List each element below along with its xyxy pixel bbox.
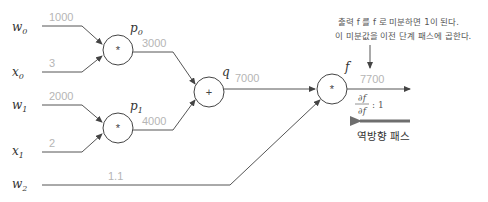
op-multiply: * bbox=[116, 44, 121, 56]
value-w0: 1000 bbox=[49, 11, 73, 23]
node-p0: * p0 bbox=[103, 21, 143, 65]
input-label-x0: x0 bbox=[12, 65, 24, 81]
input-label-w0: w0 bbox=[12, 20, 27, 36]
value-x0: 3 bbox=[49, 57, 55, 69]
annotation-line1: 출력 f 를 f 로 미분하면 1이 된다. bbox=[338, 17, 459, 27]
annotation-line2: 이 미분값을 이전 단계 패스에 곱한다. bbox=[335, 31, 471, 41]
node-label-p0: p0 bbox=[130, 21, 143, 37]
node-label-q: q bbox=[222, 65, 230, 79]
value-f: 7700 bbox=[360, 73, 384, 85]
derivative-label: ∂f ∂f : 1 bbox=[355, 93, 384, 116]
value-x1: 2 bbox=[49, 137, 55, 149]
input-label-w2: w2 bbox=[12, 177, 27, 193]
computational-graph: w0 x0 w1 x1 w2 1000 3 2000 2 1.1 * p0 * … bbox=[0, 0, 488, 202]
edge-w0-p0 bbox=[42, 26, 102, 44]
op-multiply: * bbox=[116, 122, 121, 134]
backward-pass-label: 역방향 패스 bbox=[357, 130, 410, 142]
value-p0: 3000 bbox=[142, 37, 166, 49]
node-label-f: f bbox=[344, 60, 352, 74]
node-p1: * p1 bbox=[103, 99, 143, 143]
value-w2: 1.1 bbox=[108, 170, 123, 182]
node-f: * f bbox=[317, 60, 352, 104]
value-q: 7000 bbox=[235, 72, 259, 84]
value-w1: 2000 bbox=[49, 90, 73, 102]
node-label-p1: p1 bbox=[130, 99, 143, 115]
op-multiply: * bbox=[330, 83, 335, 95]
derivative-value: : 1 bbox=[372, 100, 384, 110]
input-label-w1: w1 bbox=[12, 98, 27, 114]
derivative-numerator: ∂f bbox=[358, 93, 368, 103]
edge-p0-q bbox=[133, 52, 195, 84]
edge-w2-f bbox=[42, 100, 320, 185]
value-p1: 4000 bbox=[142, 115, 166, 127]
edge-w1-p1 bbox=[42, 105, 102, 122]
node-q: + q bbox=[194, 65, 230, 107]
input-label-x1: x1 bbox=[12, 144, 24, 160]
derivative-denominator: ∂f bbox=[358, 106, 368, 116]
op-add: + bbox=[206, 86, 212, 98]
